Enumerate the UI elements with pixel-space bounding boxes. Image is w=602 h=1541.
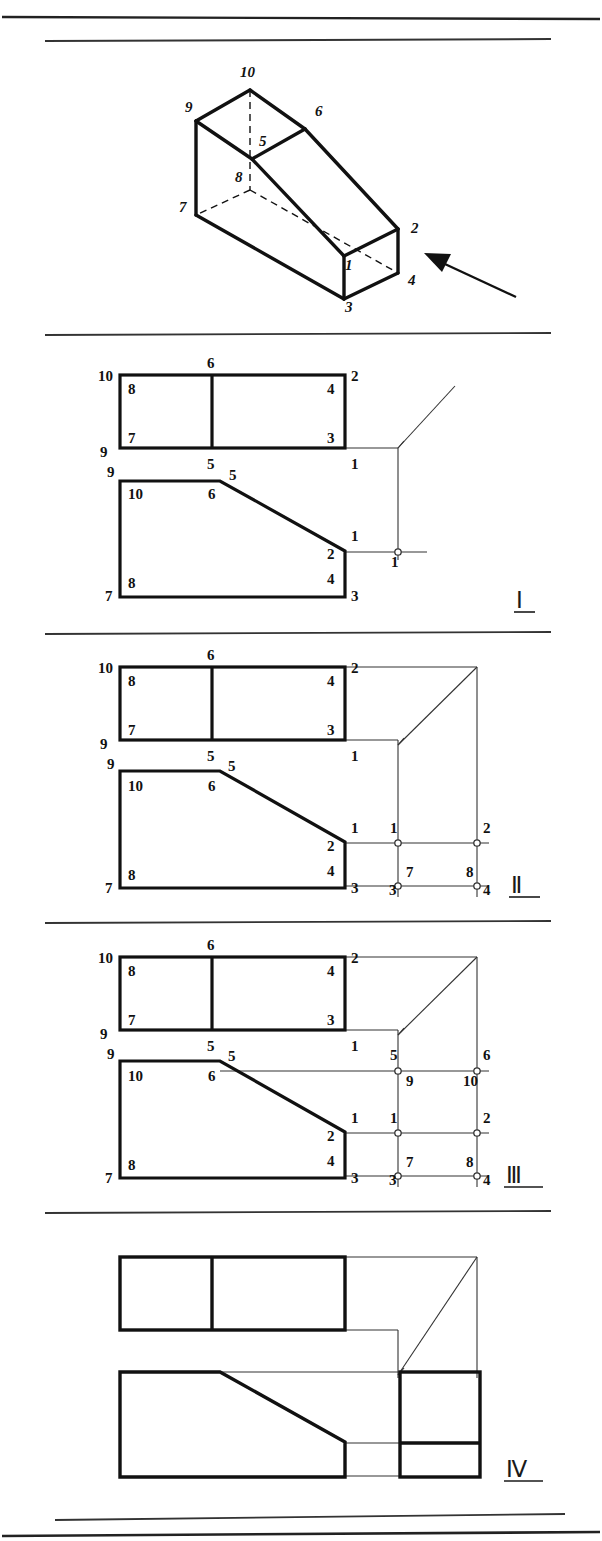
iso-vertex-label-6-2: 6: [315, 103, 323, 119]
step1-vertex-label-2-4: 2: [351, 368, 359, 384]
hidden-edge-8-4: [250, 190, 398, 273]
step-2-construction: [345, 667, 489, 897]
page-rules: [2, 17, 600, 1536]
step3-vertex-label-7-18: 7: [105, 1170, 113, 1186]
top-view-outline: [120, 1257, 345, 1330]
step1-vertex-label-5-8: 5: [207, 456, 215, 472]
step-4-group: Ⅳ: [120, 1257, 543, 1482]
step2-vertex-label-4-3: 4: [327, 673, 335, 689]
step-2-top-view: [120, 667, 345, 740]
step3-vertex-label-4-17: 4: [327, 1153, 335, 1169]
step-1-front-view: [120, 481, 345, 597]
point-marker-2: [474, 840, 480, 846]
step1-vertex-label-1-9: 1: [351, 456, 359, 472]
step1-vertex-label-7-18: 7: [105, 588, 113, 604]
iso-vertex-label-8-4: 8: [235, 169, 243, 185]
edge-1-2: [344, 229, 398, 256]
step1-vertex-label-9-7: 9: [100, 444, 108, 460]
step3-vertex-label-8-27: 8: [466, 1154, 474, 1170]
step3-vertex-label-4-29: 4: [483, 1172, 491, 1188]
step2-vertex-label-9-7: 9: [100, 736, 108, 752]
side-view-outline: [400, 1372, 480, 1477]
miter-line-4: [398, 1257, 477, 1375]
iso-vertex-label-1-7: 1: [345, 257, 353, 273]
step2-vertex-label-7-18: 7: [105, 880, 113, 896]
step3-vertex-label-3-6: 3: [327, 1012, 335, 1028]
step3-vertex-label-1-9: 1: [351, 1038, 359, 1054]
step-3-construction: [220, 957, 489, 1187]
step3-vertex-label-6-21: 6: [483, 1047, 491, 1063]
step3-vertex-label-7-5: 7: [128, 1012, 136, 1028]
step2-vertex-label-1-14: 1: [351, 820, 359, 836]
step3-vertex-label-9-10: 9: [107, 1046, 115, 1062]
step1-vertex-label-10-11: 10: [128, 486, 143, 502]
step3-vertex-label-9-22: 9: [406, 1073, 414, 1089]
step-2-group: 1086427395195106128473127834 Ⅱ: [98, 647, 540, 898]
step3-vertex-label-2-4: 2: [351, 950, 359, 966]
step-1-top-view: [120, 375, 345, 448]
step1-vertex-label-6-12: 6: [208, 486, 216, 502]
step2-vertex-label-2-4: 2: [351, 660, 359, 676]
step1-vertex-label-2-15: 2: [327, 546, 335, 562]
step2-vertex-label-3-19: 3: [351, 880, 359, 896]
point-marker-4: [474, 1173, 480, 1179]
top-view-outline: [120, 375, 345, 448]
iso-vertex-label-5-3: 5: [259, 133, 267, 149]
edge-5-9: [196, 121, 252, 159]
isometric-view: 10965872143: [179, 64, 516, 315]
step3-vertex-label-3-19: 3: [351, 1170, 359, 1186]
step2-vertex-label-2-15: 2: [327, 838, 335, 854]
step3-vertex-label-2-15: 2: [327, 1128, 335, 1144]
iso-vertex-label-3-9: 3: [344, 299, 353, 315]
step-4-top-view: [120, 1257, 345, 1330]
step3-vertex-label-6-13: 6: [208, 1068, 216, 1084]
step-3-front-view: [120, 1061, 345, 1178]
step3-vertex-label-8-16: 8: [128, 1157, 136, 1173]
step1-vertex-label-1-20: 1: [391, 554, 399, 570]
step3-vertex-label-10-0: 10: [98, 950, 113, 966]
point-marker-5: [395, 1068, 401, 1074]
step2-vertex-label-1-9: 1: [351, 748, 359, 764]
step3-vertex-label-10-23: 10: [463, 1073, 478, 1089]
step1-vertex-label-10-0: 10: [98, 368, 113, 384]
drawing-sheet: 10965872143: [0, 0, 602, 1541]
step2-vertex-label-10-12: 10: [128, 778, 143, 794]
step2-vertex-label-5-11: 5: [228, 758, 236, 774]
step-2-front-view: [120, 771, 345, 888]
step-1-group: 10864273951910651284731 Ⅰ: [98, 355, 535, 613]
rule-divider-3: [45, 921, 551, 923]
step2-vertex-label-5-8: 5: [207, 748, 215, 764]
step3-vertex-label-9-7: 9: [100, 1026, 108, 1042]
step3-vertex-label-10-12: 10: [128, 1068, 143, 1084]
step3-vertex-label-5-20: 5: [390, 1047, 398, 1063]
rule-top-outer: [2, 17, 600, 19]
step1-vertex-label-5-13: 5: [229, 467, 237, 483]
point-marker-2: [474, 1130, 480, 1136]
step3-vertex-label-4-3: 4: [327, 963, 335, 979]
step2-vertex-label-2-21: 2: [483, 820, 491, 836]
step2-vertex-label-3-24: 3: [389, 882, 397, 898]
front-view-outline: [120, 1372, 345, 1477]
miter-tick-1: [398, 441, 404, 448]
step2-vertex-label-1-20: 1: [390, 820, 398, 836]
front-view-outline: [120, 481, 345, 597]
front-view-outline: [120, 771, 345, 888]
isometric-vertex-labels: 10965872143: [179, 64, 419, 315]
step1-vertex-label-8-16: 8: [128, 575, 136, 591]
point-marker-1: [395, 840, 401, 846]
step-4-front-view: [120, 1372, 345, 1477]
step2-vertex-label-7-5: 7: [128, 722, 136, 738]
step3-vertex-label-6-2: 6: [207, 937, 215, 953]
step2-vertex-label-10-0: 10: [98, 660, 113, 676]
step1-vertex-label-4-3: 4: [327, 381, 335, 397]
edge-9-10: [196, 90, 250, 121]
step-3-roman: Ⅲ: [506, 1163, 522, 1188]
front-view-outline: [120, 1061, 345, 1178]
miter-line-3: [398, 957, 477, 1035]
step-1-construction: [345, 386, 455, 560]
isometric-visible-edges: [196, 90, 398, 299]
step1-vertex-label-8-1: 8: [128, 381, 136, 397]
step-3-group: 108642739519510612847356910127834 Ⅲ: [98, 937, 543, 1188]
step1-vertex-label-3-6: 3: [327, 430, 335, 446]
step-3-top-view: [120, 957, 345, 1030]
